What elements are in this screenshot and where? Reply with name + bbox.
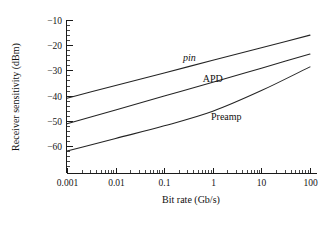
y-tick-label: −60 bbox=[47, 142, 62, 152]
y-axis-tick-labels: −10−20−30−40−50−60 bbox=[47, 16, 62, 152]
y-tick-label: −30 bbox=[47, 66, 62, 76]
receiver-sensitivity-plot: −10−20−30−40−50−60 0.0010.010.1110100 pi… bbox=[0, 0, 335, 225]
curve-label-pin: pin bbox=[182, 52, 196, 63]
x-tick-label: 0.001 bbox=[57, 178, 79, 188]
x-tick-label: 0.01 bbox=[108, 178, 125, 188]
y-tick-label: −10 bbox=[47, 16, 62, 26]
x-axis-major-ticks bbox=[68, 168, 311, 174]
x-tick-label: 0.1 bbox=[159, 178, 171, 188]
chart-figure: −10−20−30−40−50−60 0.0010.010.1110100 pi… bbox=[0, 0, 335, 225]
x-axis-title: Bit rate (Gb/s) bbox=[162, 194, 220, 206]
y-axis-title: Receiver sensitivity (dBm) bbox=[10, 43, 22, 151]
x-tick-label: 10 bbox=[257, 178, 267, 188]
curve-annotations: pinAPDPreamp bbox=[182, 52, 242, 122]
x-tick-label: 100 bbox=[303, 178, 318, 188]
curve-label-apd: APD bbox=[203, 73, 223, 84]
x-axis-tick-labels: 0.0010.010.1110100 bbox=[57, 178, 318, 188]
y-axis-major-ticks bbox=[67, 21, 73, 147]
y-tick-label: −20 bbox=[47, 41, 62, 51]
y-tick-label: −50 bbox=[47, 117, 62, 127]
y-tick-label: −40 bbox=[47, 92, 62, 102]
x-tick-label: 1 bbox=[211, 178, 216, 188]
curve-preamp bbox=[67, 67, 310, 151]
curve-label-preamp: Preamp bbox=[211, 111, 242, 122]
